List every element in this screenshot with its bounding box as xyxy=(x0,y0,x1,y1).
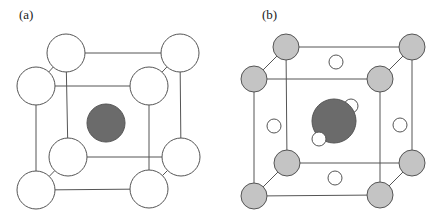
corner-atom xyxy=(162,138,200,176)
corner-atom xyxy=(130,67,168,105)
corner-atom xyxy=(367,66,393,92)
corner-atom xyxy=(399,150,425,176)
corner-atom xyxy=(47,34,85,72)
corner-atom xyxy=(367,182,393,208)
interstitial-atom xyxy=(312,132,326,146)
panel-label: (b) xyxy=(262,7,277,22)
crystal-structure-diagram: (a) (b) xyxy=(0,0,437,220)
corner-atom xyxy=(161,34,199,72)
cell-edge xyxy=(254,195,380,196)
face-center-atom xyxy=(267,119,281,133)
corner-atom xyxy=(273,34,299,60)
corner-atom xyxy=(399,34,425,60)
corner-atom xyxy=(274,150,300,176)
corner-atom xyxy=(17,171,55,209)
face-center-atom xyxy=(393,118,407,132)
face-center-atom xyxy=(328,171,342,185)
corner-atom xyxy=(49,138,87,176)
cell-edge xyxy=(286,47,287,163)
corner-atom xyxy=(17,67,55,105)
panel-a-unit-cell: (a) xyxy=(17,7,200,209)
panel-b-unit-cell: (b) xyxy=(241,7,425,209)
panel-label: (a) xyxy=(19,7,33,22)
corner-atom xyxy=(130,170,168,208)
face-center-atom xyxy=(329,55,343,69)
corner-atom xyxy=(241,183,267,209)
body-center-atom xyxy=(87,104,125,142)
corner-atom xyxy=(241,66,267,92)
